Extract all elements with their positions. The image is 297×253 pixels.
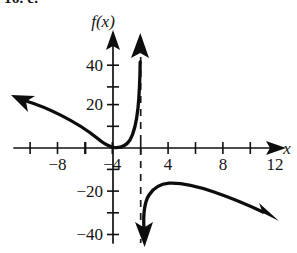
x-tick-label--8: −8 [48, 155, 66, 174]
y-tick-label-40: 40 [86, 56, 103, 75]
y-tick-label-20: 20 [86, 95, 103, 114]
axes-group [14, 30, 286, 243]
y-tick-label--20: −20 [76, 182, 103, 201]
function-graph: f(x) x −8 −4 4 8 12 40 20 −20 −40 [0, 0, 297, 253]
right-branch-curve [144, 183, 263, 228]
x-tick-label-8: 8 [219, 155, 228, 174]
x-tick-label-4: 4 [164, 155, 173, 174]
x-tick-label-12: 12 [267, 155, 284, 174]
x-axis-label: x [282, 139, 291, 158]
y-axis-label: f(x) [91, 12, 115, 31]
figure-container: 16. c. [0, 0, 297, 253]
y-tick-label--40: −40 [76, 225, 103, 244]
right-branch-right-arrowhead-icon [255, 203, 279, 221]
left-branch-curve [26, 62, 140, 148]
left-branch-up-arrowhead-icon [131, 33, 149, 58]
x-tick-label--4: −4 [103, 155, 122, 174]
